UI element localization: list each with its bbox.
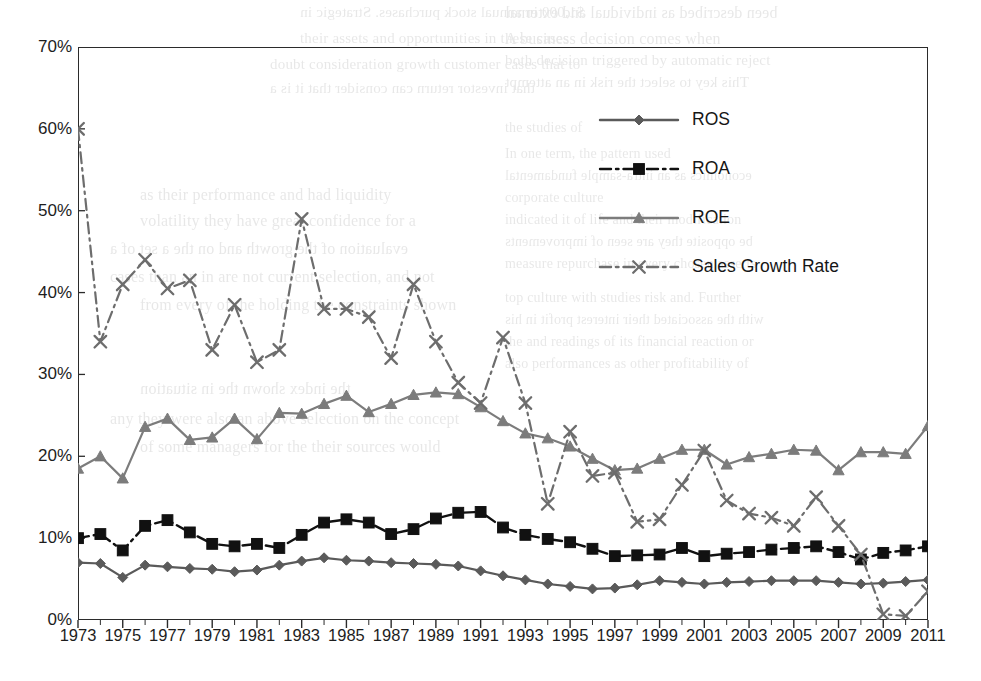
legend-label: Sales Growth Rate bbox=[692, 256, 839, 277]
x-axis-tick-label: 1987 bbox=[373, 626, 410, 645]
diamond-marker bbox=[587, 584, 597, 594]
diamond-marker-key bbox=[596, 109, 682, 131]
square-marker bbox=[117, 545, 128, 556]
square-marker bbox=[430, 513, 441, 524]
x-marker bbox=[206, 344, 218, 356]
diamond-marker bbox=[185, 563, 195, 573]
diamond-marker bbox=[632, 580, 642, 590]
diamond-marker bbox=[878, 578, 888, 588]
square-marker bbox=[654, 549, 665, 560]
diamond-marker bbox=[297, 556, 307, 566]
y-axis-tick-label: 70% bbox=[8, 37, 72, 57]
y-axis-tick-label: 50% bbox=[8, 201, 72, 221]
diamond-marker bbox=[73, 558, 83, 568]
square-marker bbox=[721, 548, 732, 559]
x-marker bbox=[810, 491, 822, 503]
square-marker bbox=[788, 543, 799, 554]
legend-item-ros[interactable]: ROS bbox=[596, 95, 926, 144]
chart-container: 0%10%20%30%40%50%60%70% 1973197519771979… bbox=[0, 0, 981, 681]
square-marker bbox=[766, 544, 777, 555]
square-marker bbox=[699, 551, 710, 562]
triangle-marker-key bbox=[596, 207, 682, 229]
triangle-marker bbox=[72, 463, 83, 473]
square-marker bbox=[833, 547, 844, 558]
square-marker bbox=[565, 537, 576, 548]
diamond-marker bbox=[543, 579, 553, 589]
triangle-marker bbox=[497, 415, 508, 425]
diamond-marker bbox=[207, 564, 217, 574]
triangle-marker bbox=[95, 451, 106, 461]
series-roa bbox=[73, 507, 934, 565]
legend-item-roe[interactable]: ROE bbox=[596, 193, 926, 242]
square-marker bbox=[184, 527, 195, 538]
diamond-marker bbox=[386, 558, 396, 568]
diamond-marker bbox=[230, 567, 240, 577]
x-marker bbox=[251, 356, 263, 368]
square-marker bbox=[632, 550, 643, 561]
diamond-marker bbox=[766, 576, 776, 586]
diamond-marker bbox=[744, 577, 754, 587]
square-marker bbox=[408, 524, 419, 535]
square-marker bbox=[386, 529, 397, 540]
x-axis-tick-label: 1985 bbox=[328, 626, 365, 645]
square-marker bbox=[229, 541, 240, 552]
x-marker bbox=[833, 520, 845, 532]
diamond-marker bbox=[274, 560, 284, 570]
square-marker bbox=[900, 545, 911, 556]
diamond-marker bbox=[520, 575, 530, 585]
diamond-marker bbox=[118, 572, 128, 582]
triangle-marker bbox=[162, 413, 173, 423]
series-roe bbox=[72, 387, 933, 483]
x-axis-tick-label: 1991 bbox=[462, 626, 499, 645]
legend-label: ROA bbox=[692, 158, 730, 179]
x-marker bbox=[162, 283, 174, 295]
x-axis-tick-label: 2001 bbox=[686, 626, 723, 645]
x-axis-tick-label: 2009 bbox=[865, 626, 902, 645]
x-axis-tick-label: 1995 bbox=[552, 626, 589, 645]
diamond-marker bbox=[856, 579, 866, 589]
x-axis-tick-labels: 1973197519771979198119831985198719891991… bbox=[0, 626, 981, 658]
x-axis-tick-label: 1993 bbox=[507, 626, 544, 645]
x-axis-tick-label: 1973 bbox=[60, 626, 97, 645]
triangle-marker bbox=[520, 428, 531, 438]
x-marker bbox=[117, 279, 129, 291]
diamond-marker bbox=[431, 559, 441, 569]
square-marker bbox=[498, 522, 509, 533]
square-marker bbox=[609, 551, 620, 562]
diamond-marker bbox=[722, 577, 732, 587]
diamond-marker bbox=[923, 575, 933, 585]
square-marker bbox=[319, 517, 330, 528]
diamond-marker bbox=[319, 553, 329, 563]
x-marker bbox=[452, 377, 464, 389]
x-axis-tick-label: 2011 bbox=[910, 626, 945, 645]
legend-label: ROE bbox=[692, 207, 730, 228]
square-marker bbox=[207, 538, 218, 549]
square-marker bbox=[73, 533, 84, 544]
legend-item-roa[interactable]: ROA bbox=[596, 144, 926, 193]
diamond-marker bbox=[162, 562, 172, 572]
x-marker bbox=[229, 299, 241, 311]
square-marker bbox=[634, 163, 645, 174]
y-axis-tick-label: 60% bbox=[8, 119, 72, 139]
chart-legend: ROSROAROESales Growth Rate bbox=[596, 95, 926, 291]
x-axis-tick-label: 2005 bbox=[775, 626, 812, 645]
legend-item-sales-growth-rate[interactable]: Sales Growth Rate bbox=[596, 242, 926, 291]
diamond-marker bbox=[565, 581, 575, 591]
square-marker-key bbox=[596, 158, 682, 180]
x-axis-tick-label: 1999 bbox=[641, 626, 678, 645]
y-axis-tick-label: 10% bbox=[8, 528, 72, 548]
x-axis-tick-label: 1979 bbox=[194, 626, 231, 645]
x-marker bbox=[139, 254, 151, 266]
diamond-marker bbox=[498, 571, 508, 581]
triangle-marker bbox=[229, 413, 240, 423]
x-marker bbox=[676, 479, 688, 491]
square-marker bbox=[252, 538, 263, 549]
y-axis-ticks bbox=[78, 129, 85, 538]
x-marker-key bbox=[596, 256, 682, 278]
square-marker bbox=[811, 541, 822, 552]
x-axis-tick-label: 2003 bbox=[731, 626, 768, 645]
square-marker bbox=[878, 547, 889, 558]
diamond-marker bbox=[453, 561, 463, 571]
series-ros bbox=[73, 553, 933, 594]
diamond-marker bbox=[409, 559, 419, 569]
